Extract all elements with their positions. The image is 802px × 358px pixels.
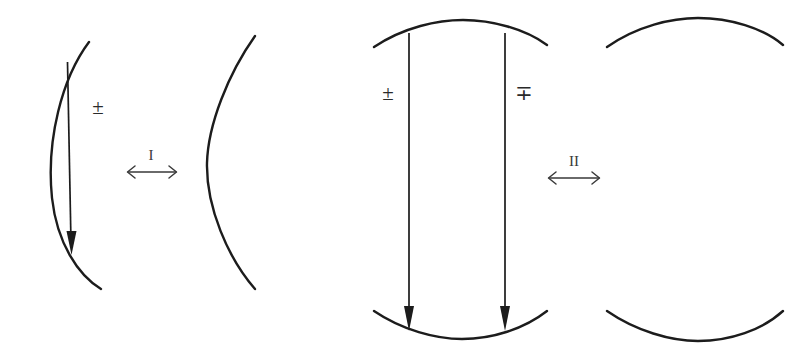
canvas-background [0, 0, 802, 358]
panel-two-right-sign-label: ∓ [515, 81, 533, 105]
figure-root: ± I ± ∓ [0, 0, 802, 358]
diagram-canvas: ± I ± ∓ [0, 0, 802, 358]
gap-one-roman-label: I [149, 147, 154, 163]
panel-two-left-sign-label: ± [382, 81, 394, 105]
panel-one-sign-label: ± [92, 95, 104, 119]
gap-two-roman-label: II [569, 153, 579, 169]
